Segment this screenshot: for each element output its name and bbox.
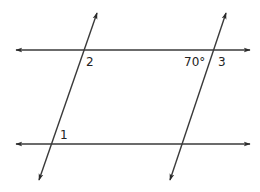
diagram-canvas — [0, 0, 260, 192]
angle-2-label: 2 — [86, 56, 94, 68]
angle-1-label: 1 — [60, 129, 68, 141]
left-transversal — [39, 13, 97, 180]
angle-3-label: 3 — [218, 56, 226, 68]
angle-70-label: 70° — [184, 56, 205, 68]
right-transversal — [170, 13, 226, 180]
